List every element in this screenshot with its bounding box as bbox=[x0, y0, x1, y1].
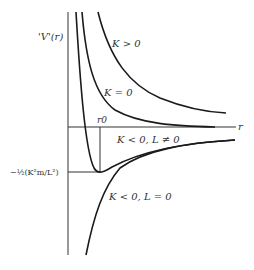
potential-diagram: 'V'(r) r r0 −½(K²m/L²) K > 0 K = 0 K < 0… bbox=[0, 0, 254, 270]
label-k-positive: K > 0 bbox=[111, 38, 141, 49]
y-axis-label: 'V'(r) bbox=[38, 31, 63, 42]
label-k-negative-l-zero: K < 0, L = 0 bbox=[108, 191, 172, 202]
min-level-label: −½(K²m/L²) bbox=[10, 168, 59, 177]
x-axis-label: r bbox=[238, 121, 244, 132]
label-k-negative-l-nonzero: K < 0, L ≠ 0 bbox=[116, 134, 180, 145]
label-k-zero: K = 0 bbox=[103, 87, 133, 98]
r0-label: r0 bbox=[97, 115, 107, 125]
curve-k-zero bbox=[82, 12, 215, 127]
